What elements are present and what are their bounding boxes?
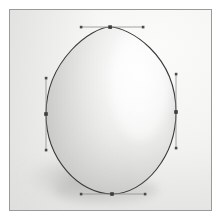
anchor-left[interactable]: [44, 112, 48, 116]
handle-point-right-bottom[interactable]: [175, 147, 178, 150]
handle-point-bottom-right[interactable]: [144, 193, 147, 196]
handle-point-bottom-left[interactable]: [80, 193, 83, 196]
image-canvas: Egg with vector bezier path overlay: [0, 0, 222, 221]
anchor-right[interactable]: [174, 110, 178, 114]
handle-point-top-right[interactable]: [142, 26, 145, 29]
handle-point-left-bottom[interactable]: [45, 149, 48, 152]
photo-frame: [9, 9, 212, 211]
handle-point-top-left[interactable]: [80, 26, 83, 29]
handle-point-left-top[interactable]: [45, 77, 48, 80]
egg-and-path-graphic: [10, 10, 211, 210]
anchor-top[interactable]: [108, 25, 112, 29]
handle-point-right-top[interactable]: [175, 73, 178, 76]
anchor-bottom[interactable]: [110, 192, 114, 196]
image-title: Egg with vector bezier path overlay: [0, 0, 1, 1]
